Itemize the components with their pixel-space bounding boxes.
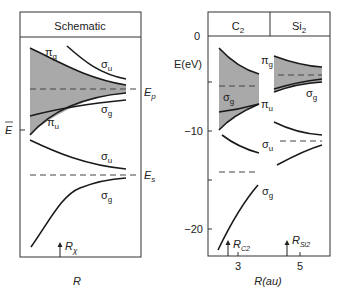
- svg-text:C2: C2: [232, 20, 245, 35]
- r-si2-label: R: [292, 234, 300, 246]
- schematic-x-label: R: [73, 275, 81, 287]
- svg-text:RC2: RC2: [233, 238, 250, 252]
- c2-sigma-u-curve: [222, 135, 259, 153]
- ebar-label: E: [5, 124, 13, 136]
- r-c2-label: R: [233, 238, 241, 250]
- sigma-g-low-curve: [31, 178, 126, 247]
- svg-text:σg: σg: [262, 185, 273, 200]
- mo-energy-diagram: Schematic E Ep Es πg σu σg πu σu σg: [0, 0, 340, 293]
- x-tick-3: 3: [235, 260, 241, 272]
- svg-text:RSi2: RSi2: [292, 234, 310, 248]
- svg-text:σg: σg: [306, 87, 317, 102]
- c2-si2-panel: C2 Si2 0 −10 −20 E(eV) 3 5 R(au): [174, 12, 330, 287]
- c2-header: C: [232, 20, 240, 32]
- ep-sub: p: [150, 92, 156, 101]
- svg-text:Ep: Ep: [144, 86, 156, 101]
- svg-text:σg: σg: [101, 189, 112, 204]
- es-sub: s: [151, 175, 155, 184]
- r-c2-arrowhead-icon: [226, 240, 231, 245]
- svg-text:πg: πg: [261, 54, 273, 69]
- si2-header: Si: [292, 20, 302, 32]
- y-tick-minus10: −10: [184, 125, 203, 137]
- schematic-panel: Schematic E Ep Es πg σu σg πu σu σg: [5, 12, 156, 287]
- svg-text:πu: πu: [261, 98, 273, 113]
- svg-text:σu: σu: [262, 138, 273, 153]
- r-si2-arrowhead-icon: [285, 240, 290, 245]
- r-chi-label: R: [65, 240, 73, 252]
- svg-text:Es: Es: [144, 169, 155, 184]
- y-tick-0: 0: [194, 30, 200, 42]
- x-tick-5: 5: [297, 260, 303, 272]
- svg-text:σg: σg: [101, 103, 112, 118]
- svg-text:πu: πu: [47, 116, 59, 131]
- r-chi-arrowhead-icon: [58, 242, 63, 247]
- y-axis-label: E(eV): [174, 58, 202, 70]
- svg-text:Si2: Si2: [292, 20, 307, 35]
- si2-sigma-u-upper-curve: [274, 122, 322, 135]
- svg-text:Rχ: Rχ: [65, 240, 78, 255]
- si2-lower-curve: [277, 145, 322, 165]
- x-axis-label: R(au): [254, 275, 282, 287]
- schematic-header: Schematic: [54, 20, 106, 32]
- schematic-frame: [20, 12, 141, 257]
- c2-band-shading: [219, 48, 259, 130]
- y-tick-minus20: −20: [184, 223, 203, 235]
- svg-text:σu: σu: [101, 150, 112, 165]
